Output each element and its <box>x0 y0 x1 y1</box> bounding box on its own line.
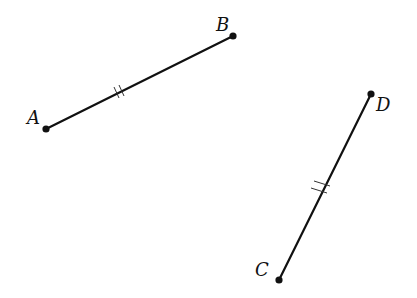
congruent-segments-diagram: A B C D <box>0 0 417 298</box>
point-b <box>229 32 236 39</box>
segment-cd <box>279 94 371 280</box>
label-a: A <box>25 107 40 128</box>
label-b: B <box>215 14 229 35</box>
label-c: C <box>255 259 269 280</box>
point-d <box>367 90 374 97</box>
point-c <box>275 276 282 283</box>
segment-ab <box>46 36 233 129</box>
label-d: D <box>375 94 391 115</box>
point-a <box>42 125 49 132</box>
